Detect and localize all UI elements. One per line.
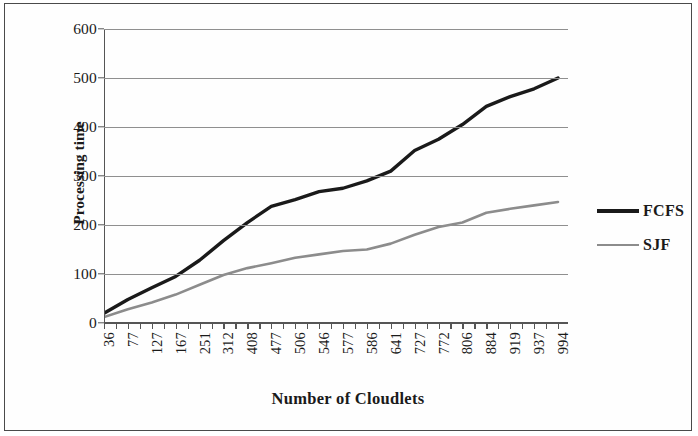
x-tick-mark <box>212 323 213 329</box>
x-tick-mark <box>462 323 463 329</box>
x-tick-mark <box>427 323 428 329</box>
x-tick-label-36: 36 <box>101 332 118 347</box>
gridline-600 <box>104 29 568 30</box>
x-tick-label-884: 884 <box>483 332 500 354</box>
x-tick-mark <box>116 323 117 329</box>
chart-legend: FCFSSJF <box>597 194 692 262</box>
x-tick-label-806: 806 <box>459 332 476 354</box>
gridline-200 <box>104 225 568 226</box>
y-tick-label-500: 500 <box>73 69 97 87</box>
x-tick-mark <box>295 323 296 329</box>
x-tick-mark <box>450 323 451 329</box>
x-tick-mark <box>331 323 332 329</box>
x-tick-label-641: 641 <box>387 332 404 354</box>
x-tick-label-937: 937 <box>531 332 548 354</box>
x-tick-mark <box>379 323 380 329</box>
x-tick-mark <box>104 323 105 329</box>
y-tick-mark-100 <box>98 273 104 274</box>
legend-swatch-fcfs-icon <box>597 209 639 212</box>
x-tick-label-586: 586 <box>363 332 380 354</box>
x-tick-mark <box>271 323 272 329</box>
gridline-100 <box>104 274 568 275</box>
x-tick-label-546: 546 <box>316 332 333 354</box>
x-tick-mark <box>498 323 499 329</box>
x-tick-mark <box>558 323 559 329</box>
x-tick-label-77: 77 <box>124 332 141 347</box>
x-tick-mark <box>403 323 404 329</box>
y-tick-mark-400 <box>98 126 104 127</box>
gridline-500 <box>104 78 568 79</box>
legend-item-fcfs[interactable]: FCFS <box>597 194 692 228</box>
x-tick-mark <box>474 323 475 329</box>
x-tick-mark <box>439 323 440 329</box>
y-tick-mark-600 <box>98 28 104 29</box>
legend-swatch-sjf-icon <box>597 244 639 247</box>
x-tick-mark <box>391 323 392 329</box>
x-axis-title: Number of Cloudlets <box>5 389 691 409</box>
y-tick-label-300: 300 <box>73 167 97 185</box>
x-tick-mark <box>319 323 320 329</box>
figure-frame: Processing time 0100200300400500600 3677… <box>4 3 692 431</box>
x-tick-label-772: 772 <box>435 332 452 354</box>
legend-label: SJF <box>643 236 671 254</box>
x-tick-label-727: 727 <box>411 332 428 354</box>
x-tick-mark <box>164 323 165 329</box>
x-tick-mark <box>259 323 260 329</box>
x-tick-mark <box>152 323 153 329</box>
plot-area: 0100200300400500600 36771271672513124084… <box>104 29 568 323</box>
x-tick-label-506: 506 <box>292 332 309 354</box>
x-tick-label-477: 477 <box>268 332 285 354</box>
x-tick-mark <box>176 323 177 329</box>
x-tick-mark <box>510 323 511 329</box>
x-tick-label-994: 994 <box>555 332 572 354</box>
x-tick-mark <box>307 323 308 329</box>
x-tick-mark <box>343 323 344 329</box>
x-tick-label-408: 408 <box>244 332 261 354</box>
x-tick-label-312: 312 <box>220 332 237 354</box>
y-tick-mark-500 <box>98 77 104 78</box>
gridline-400 <box>104 127 568 128</box>
x-tick-label-251: 251 <box>196 332 213 354</box>
x-tick-label-127: 127 <box>148 332 165 354</box>
y-tick-mark-300 <box>98 175 104 176</box>
x-tick-mark <box>188 323 189 329</box>
x-tick-mark <box>283 323 284 329</box>
y-tick-label-200: 200 <box>73 216 97 234</box>
x-tick-mark <box>247 323 248 329</box>
y-tick-label-100: 100 <box>73 265 97 283</box>
x-tick-mark <box>235 323 236 329</box>
x-tick-mark <box>522 323 523 329</box>
legend-label: FCFS <box>643 202 684 220</box>
x-tick-label-577: 577 <box>339 332 356 354</box>
y-tick-label-400: 400 <box>73 118 97 136</box>
x-tick-mark <box>223 323 224 329</box>
gridline-300 <box>104 176 568 177</box>
x-tick-label-167: 167 <box>172 332 189 354</box>
x-tick-mark <box>367 323 368 329</box>
legend-item-sjf[interactable]: SJF <box>597 228 692 262</box>
x-tick-mark <box>415 323 416 329</box>
y-tick-label-0: 0 <box>89 314 97 332</box>
x-tick-mark <box>486 323 487 329</box>
y-tick-label-600: 600 <box>73 20 97 38</box>
y-tick-mark-200 <box>98 224 104 225</box>
x-tick-mark <box>128 323 129 329</box>
x-tick-mark <box>200 323 201 329</box>
x-tick-mark <box>546 323 547 329</box>
x-tick-label-919: 919 <box>507 332 524 354</box>
x-tick-mark <box>355 323 356 329</box>
x-tick-mark <box>140 323 141 329</box>
x-tick-mark <box>534 323 535 329</box>
